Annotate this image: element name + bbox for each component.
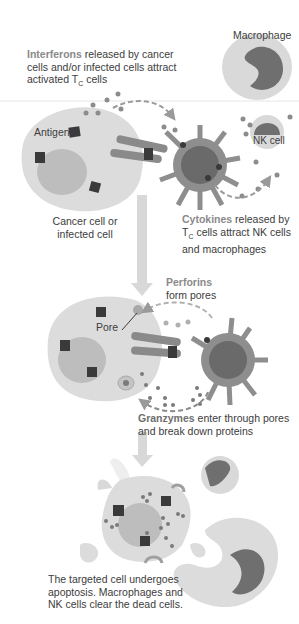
cytokines-label: Cytokines released by TC cells attract N… xyxy=(182,213,299,256)
granzymes-label: Granzymes enter through pores and break … xyxy=(138,412,299,437)
apoptosis-caption: The targeted cell undergoes apoptosis. M… xyxy=(48,573,198,611)
apoptotic-cell xyxy=(80,458,205,563)
down-arrow-icon xyxy=(131,195,153,296)
nk-cell-stage3 xyxy=(201,456,239,494)
macrophage-label: Macrophage xyxy=(233,29,291,42)
nk-cell-label: NK cell xyxy=(253,135,285,148)
antigen-icon xyxy=(68,126,80,137)
macrophage-cell xyxy=(222,34,292,100)
down-arrow-icon-2 xyxy=(132,432,153,467)
interferons-label: Interferons released by cancer cells and… xyxy=(27,48,187,91)
immune-response-illustration xyxy=(0,0,299,624)
antigen-label: Antigen xyxy=(34,126,70,139)
pore-icon xyxy=(133,305,143,315)
target-cell-label: Cancer cell or infected cell xyxy=(30,215,140,240)
pore-label: Pore xyxy=(96,321,118,334)
perforins-label: Perforins form pores xyxy=(166,276,216,301)
target-cell xyxy=(22,107,144,211)
